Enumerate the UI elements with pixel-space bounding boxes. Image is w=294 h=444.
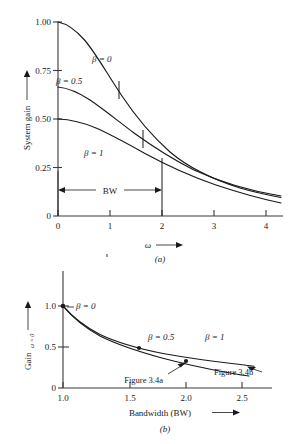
panel-a-xtick-1: 1 [108, 221, 113, 231]
panel-a-ytick-075: 0.75 [35, 66, 51, 76]
panel-a-label-beta-0: β = 0 [91, 54, 112, 64]
panel-a-xtick-0: 0 [56, 221, 61, 231]
panel-a-label-beta-05: β = 0.5 [55, 76, 83, 86]
panel-b-label-beta-1: β = 1 [204, 332, 225, 342]
panel-a-ytick-050: 0.50 [35, 114, 51, 124]
panel-b-annotation-figure-34a: Figure 3.4a [124, 362, 186, 385]
panel-b-ylabel-text: Gain [23, 352, 33, 370]
panel-a: 0 0.25 0.50 0.75 1.00 0 1 2 3 4 System g… [22, 17, 283, 264]
panel-a-x-axis-label: ω [145, 240, 183, 250]
panel-a-bw-arrow-left-icon [58, 187, 65, 193]
panel-b-annotation-a-text: Figure 3.4a [124, 375, 163, 385]
panel-a-curve-beta-0 [58, 22, 281, 198]
panel-a-xtick-3: 3 [212, 221, 217, 231]
panel-b-xlabel-text: Bandwidth (BW) [129, 408, 191, 418]
panel-a-bw-label: BW [103, 186, 118, 196]
panel-a-bandwidth-indicator: BW [58, 171, 162, 216]
panel-b-ytick-10: 1.0 [45, 301, 57, 311]
panel-a-ytick-0: 0 [47, 211, 52, 221]
panel-b-datapoint-beta-0 [61, 304, 66, 309]
panel-b-annotation-figure-34b: Figure 3.4b [214, 367, 262, 377]
panel-b-xtick-25: 2.5 [236, 393, 248, 403]
figure-3-5-two-panel-plot: 0 0.25 0.50 0.75 1.00 0 1 2 3 4 System g… [0, 0, 294, 444]
panel-a-ylabel-arrow-icon [24, 70, 30, 77]
panel-b-caption: (b) [160, 424, 171, 434]
panel-b-datapoint-beta-05 [137, 346, 141, 350]
panel-b: 0 0.5 1.0 1.0 1.5 2.0 2.5 Gain ω = 0 β =… [23, 271, 272, 434]
panel-a-ytick-025: 0.25 [35, 163, 51, 173]
panel-b-ytick-0: 0 [52, 383, 57, 393]
panel-a-ylabel-text: System gain [22, 105, 32, 150]
panel-a-xtick-4: 4 [264, 221, 269, 231]
panel-b-xtick-10: 1.0 [57, 393, 69, 403]
panel-b-x-axis-label: Bandwidth (BW) [129, 408, 240, 418]
panel-a-xlabel-arrow-icon [176, 242, 183, 248]
panel-b-y-axis-label: Gain ω = 0 [23, 301, 35, 370]
panel-b-label-beta-05: β = 0.5 [147, 332, 175, 342]
panel-b-xtick-20: 2.0 [180, 393, 192, 403]
panel-a-xlabel-text: ω [145, 240, 151, 250]
panel-a-caption: (a) [155, 254, 166, 264]
panel-b-ylabel-arrow-icon [25, 301, 31, 308]
panel-a-label-beta-1: β = 1 [83, 148, 104, 158]
panel-b-ylabel-subscript: ω = 0 [29, 334, 35, 348]
panel-b-xtick-15: 1.5 [124, 393, 136, 403]
panel-a-xtick-2: 2 [160, 221, 165, 231]
panel-a-curve-beta-05 [58, 87, 281, 196]
panel-b-label-beta-0: β = 0 [75, 301, 96, 311]
panel-b-ytick-05: 0.5 [45, 342, 57, 352]
panel-a-bw-arrow-right-icon [155, 187, 162, 193]
print-speck-artifact [106, 254, 108, 257]
panel-b-xlabel-arrow-icon [233, 409, 240, 415]
panel-b-annotation-b-text: Figure 3.4b [214, 367, 253, 377]
panel-a-ytick-100: 1.00 [35, 17, 51, 27]
panel-a-y-axis-label: System gain [22, 70, 32, 150]
